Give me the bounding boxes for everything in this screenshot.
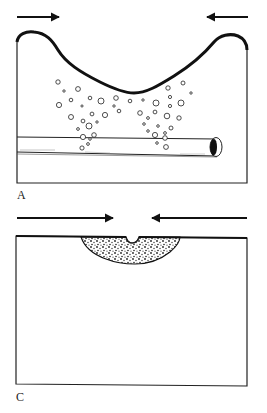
stippled-zone [81,237,180,264]
panel-c [16,218,247,386]
panel-a [17,17,248,183]
block-outline-a [17,42,247,183]
figure-canvas [0,0,267,413]
deformed-surface [17,32,247,93]
rod [17,137,222,157]
panel-label-a: A [17,189,26,201]
panel-label-c: C [16,391,24,403]
